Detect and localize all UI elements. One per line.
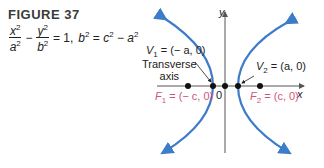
transverse-text: Transverse (142, 58, 197, 70)
focus-f2-label: F2 = (c, 0) (250, 90, 299, 105)
f1-sub: 1 (162, 96, 166, 105)
v2-pointer (242, 76, 254, 83)
vertex-v2-label: V2 = (a, 0) (256, 60, 306, 75)
v2-value: = (a, 0) (271, 60, 306, 72)
focus-f1-point (185, 83, 191, 89)
v1-value: = (− a, 0) (161, 44, 206, 56)
vertex-v2-point (235, 83, 241, 89)
f1-value: = (− c, 0) (169, 90, 213, 102)
y-label-text: y (219, 6, 225, 18)
origin-point (222, 83, 228, 89)
origin-label: 0 (216, 89, 222, 101)
focus-f1-label: F1 = (− c, 0) (155, 90, 213, 105)
f2-sub: 2 (257, 96, 261, 105)
vertex-v1-label: V1 = (− a, 0) (146, 44, 206, 59)
hyperbola-diagram (0, 0, 324, 168)
axis-text: axis (142, 70, 197, 82)
f1-name: F (155, 90, 162, 102)
focus-f2-point (257, 83, 263, 89)
transverse-axis-label: Transverse axis (142, 58, 197, 82)
f2-value: = (c, 0) (264, 90, 299, 102)
f2-name: F (250, 90, 257, 102)
v2-sub: 2 (263, 66, 267, 75)
y-axis-label: y (219, 6, 225, 18)
right-branch-curve (238, 22, 288, 152)
